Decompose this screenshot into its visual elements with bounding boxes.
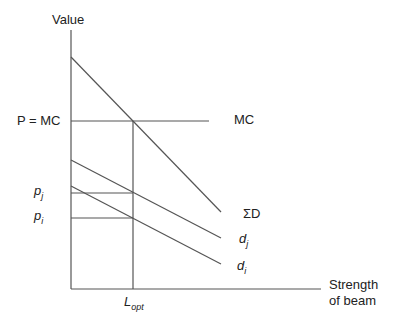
dj-line [71,160,221,238]
pj-label: pj [34,183,43,201]
sum-d-line [71,57,221,212]
x-axis-label-line2: of beam [329,293,376,308]
mc-label: MC [234,112,254,127]
x-axis-label-line1: Strength [329,277,378,292]
diagram-canvas [0,0,393,324]
p-mc-label: P = MC [17,113,60,128]
lopt-label: Lopt [124,294,144,312]
pi-label: pi [34,208,43,226]
dj-label: dj [239,231,248,249]
y-axis-label: Value [52,12,84,27]
sum-d-label: ΣD [243,206,260,221]
di-label: di [237,258,246,276]
di-line [71,186,221,264]
